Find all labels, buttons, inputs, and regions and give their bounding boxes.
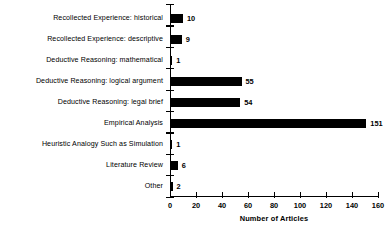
category-label: Deductive Reasoning: mathematical <box>46 50 163 71</box>
bar-1 <box>170 35 182 44</box>
category-label: Recollected Experience: historical <box>53 8 163 29</box>
category-label: Other <box>145 176 163 197</box>
y-tick <box>166 68 174 69</box>
chart-row: Deductive Reasoning: mathematical 1 <box>0 50 390 71</box>
x-tick <box>326 192 327 198</box>
chart-row: Empirical Analysis 151 <box>0 113 390 134</box>
x-tick <box>248 192 249 198</box>
x-tick <box>274 192 275 198</box>
bar-3 <box>170 77 242 86</box>
chart-row: Literature Review 6 <box>0 155 390 176</box>
x-tick <box>222 192 223 198</box>
bar-value-0: 10 <box>187 13 195 24</box>
bar-value-2: 1 <box>176 55 180 66</box>
y-tick <box>166 111 174 112</box>
chart-row: Deductive Reasoning: legal brief 54 <box>0 92 390 113</box>
bar-value-7: 6 <box>182 160 186 171</box>
category-label: Deductive Reasoning: legal brief <box>58 92 163 113</box>
chart-row: Deductive Reasoning: logical argument 55 <box>0 71 390 92</box>
chart-row: Other 2 <box>0 176 390 197</box>
y-tick <box>166 132 174 133</box>
chart-row: Recollected Experience: descriptive 9 <box>0 29 390 50</box>
category-label: Heuristic Analogy Such as Simulation <box>42 134 163 155</box>
y-tick <box>166 90 174 91</box>
chart-row: Recollected Experience: historical 10 <box>0 8 390 29</box>
bar-value-4: 54 <box>244 97 252 108</box>
bar-0 <box>170 14 183 23</box>
bar-value-5: 151 <box>370 118 382 129</box>
x-tick <box>352 192 353 198</box>
x-tick <box>170 192 171 198</box>
category-label: Deductive Reasoning: logical argument <box>36 71 163 92</box>
bar-chart: Recollected Experience: historical 10 Re… <box>0 0 390 236</box>
category-label: Recollected Experience: descriptive <box>47 29 163 50</box>
x-tick <box>196 192 197 198</box>
y-axis-line <box>170 4 171 197</box>
y-tick <box>166 154 174 155</box>
y-tick <box>166 175 174 176</box>
bar-4 <box>170 98 240 107</box>
bar-value-3: 55 <box>246 76 254 87</box>
y-tick <box>166 25 174 26</box>
bar-value-8: 2 <box>177 181 181 192</box>
x-tick <box>378 192 379 198</box>
x-axis-title: Number of Articles <box>170 214 378 223</box>
y-tick <box>166 47 174 48</box>
bar-value-6: 1 <box>176 139 180 150</box>
bar-value-1: 9 <box>186 34 190 45</box>
bar-5 <box>170 119 366 128</box>
chart-row: Heuristic Analogy Such as Simulation 1 <box>0 134 390 155</box>
x-tick-label: 160 <box>363 200 390 211</box>
x-tick <box>300 192 301 198</box>
category-label: Literature Review <box>106 155 163 176</box>
category-label: Empirical Analysis <box>104 113 163 134</box>
y-tick <box>166 4 174 5</box>
